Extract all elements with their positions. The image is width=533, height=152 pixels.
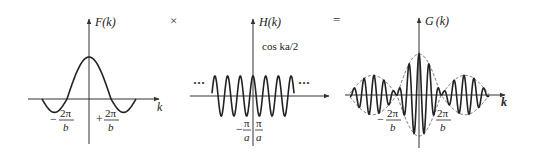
svg-text:b: b [390,121,396,133]
h-annotation: cos ka/2 [262,40,298,52]
svg-text:b: b [440,121,446,133]
panel-g: G(k) k − 2π b 2π b [345,14,507,148]
g-tick-neg: − 2π b [377,107,401,133]
panel-f: F(k) k − 2π b + 2π b [28,15,163,144]
svg-text:+: + [96,112,103,126]
h-ellipsis-left: ··· [193,76,205,90]
svg-text:b: b [108,121,114,133]
svg-text:2π: 2π [60,107,72,119]
svg-text:−: − [50,112,57,126]
svg-text:2π: 2π [437,107,449,119]
svg-text:−: − [236,122,243,136]
svg-text:π: π [256,117,262,129]
svg-text:−: − [377,112,384,126]
figure: F(k) k − 2π b + 2π b × H(k) cos ka/2 ···… [0,0,533,152]
h-ellipsis-right: ··· [298,76,310,90]
h-title: H(k) [258,15,281,29]
svg-text:2π: 2π [105,107,117,119]
f-tick-pos: + 2π b [96,107,119,133]
f-tick-neg: − 2π b [50,107,74,133]
g-tick-pos: 2π b [436,107,451,133]
h-tick-pos: π a [255,117,263,143]
svg-text:π: π [244,117,250,129]
panel-h: H(k) cos ka/2 ··· ··· − π a π a [190,15,329,146]
svg-text:b: b [63,121,69,133]
f-k-label: k [157,100,163,114]
svg-text:2π: 2π [387,107,399,119]
f-title: F(k) [94,15,116,29]
times-operator: × [170,13,177,28]
svg-text:a: a [244,131,250,143]
g-title: G(k) [425,14,449,28]
g-k-label: k [501,95,507,109]
equals-operator: = [333,12,340,27]
h-tick-neg: − π a [236,117,251,143]
svg-text:a: a [256,131,262,143]
